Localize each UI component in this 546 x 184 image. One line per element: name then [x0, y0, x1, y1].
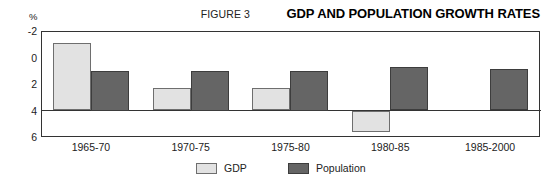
y-tick-label: 6: [11, 131, 37, 143]
legend-label: GDP: [224, 162, 247, 174]
figure-number: FIGURE 3: [201, 8, 250, 20]
y-tick-4: 0: [11, 58, 37, 70]
legend-swatch-population: [288, 163, 309, 174]
x-tick-label: 1980-85: [340, 141, 440, 153]
x-axis-tick-labels: 1965-701970-751975-801980-851985-2000: [41, 141, 540, 155]
legend-swatch-gdp: [196, 163, 217, 174]
bar-group: [440, 31, 540, 137]
bar-gdp-1970-75: [153, 88, 191, 111]
legend-label: Population: [316, 162, 366, 174]
y-tick-label: 0: [11, 52, 37, 64]
bar-gdp-1965-70: [53, 43, 91, 111]
y-tick-label: 2: [11, 78, 37, 90]
bar-group: [241, 31, 341, 137]
y-tick-0: 4: [11, 111, 37, 123]
x-tick-label: 1985-2000: [440, 141, 540, 153]
bar-group: [340, 31, 440, 137]
bar-population-1965-70: [91, 71, 129, 111]
y-axis-unit-label: %: [29, 11, 37, 22]
bar-gdp-1975-80: [252, 88, 290, 111]
y-tick-neg2: 6: [11, 137, 37, 149]
x-tick-label: 1970-75: [141, 141, 241, 153]
y-tick-label: 4: [11, 105, 37, 117]
legend-item-population: Population: [288, 162, 366, 174]
y-tick-6: -2: [11, 31, 37, 43]
chart-legend: GDPPopulation: [0, 162, 546, 178]
figure-title: GDP AND POPULATION GROWTH RATES: [286, 6, 540, 21]
bar-groups: [41, 31, 540, 137]
bar-population-1970-75: [191, 71, 229, 111]
y-tick-2: 2: [11, 84, 37, 96]
bar-group: [141, 31, 241, 137]
bar-group: [41, 31, 141, 137]
bar-gdp-1980-85: [352, 111, 390, 132]
figure-container: FIGURE 3 GDP AND POPULATION GROWTH RATES…: [0, 0, 546, 184]
x-tick-label: 1975-80: [241, 141, 341, 153]
bar-population-1980-85: [390, 67, 428, 111]
y-tick-label: -2: [11, 25, 37, 37]
figure-header: FIGURE 3 GDP AND POPULATION GROWTH RATES: [0, 6, 546, 24]
bar-population-1985-2000: [490, 69, 528, 110]
legend-item-gdp: GDP: [196, 162, 247, 174]
bar-population-1975-80: [290, 71, 328, 111]
x-tick-label: 1965-70: [41, 141, 141, 153]
